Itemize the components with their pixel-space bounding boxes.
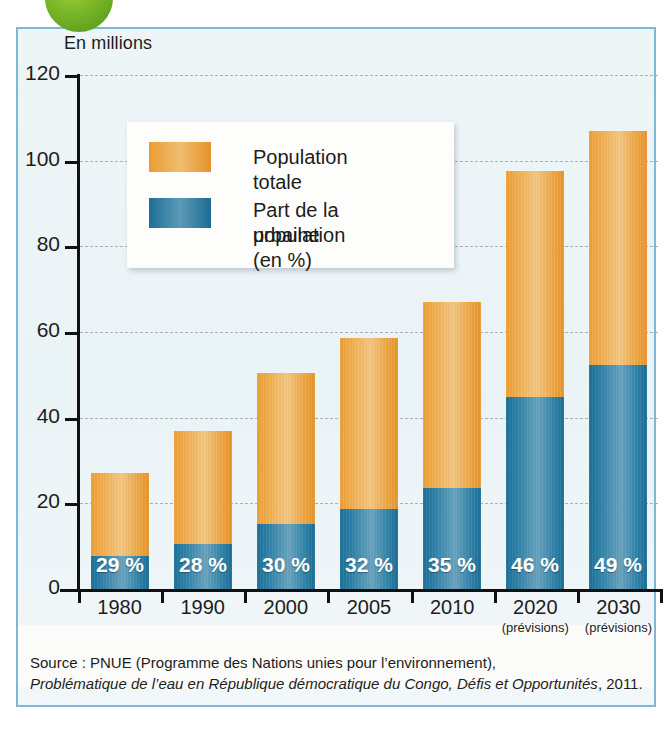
chart-legend: Population totale Part de la population … [127,122,454,268]
y-tick-label: 120 [8,61,60,85]
y-tick-label: 80 [8,232,60,256]
y-tick-label: 0 [8,575,60,599]
y-tick-mark [65,503,79,506]
x-axis-line [60,589,660,592]
y-tick-label: 60 [8,318,60,342]
plot-area: 02040608010012029 %198028 %199030 %20003… [0,0,672,731]
source-line-1: Source : PNUE (Programme des Nations uni… [30,652,650,673]
legend-label-urban-line2: urbaine (en %) [253,223,320,273]
x-tick-label-1990: 1990 [158,596,248,619]
source-year: , 2011. [598,675,643,692]
orange-swatch-icon [149,142,211,172]
x-tick-label-2005: 2005 [324,596,414,619]
y-tick-mark [65,589,79,592]
x-tick-sublabel-2030: (prévisions) [568,620,668,635]
bar-percent-label-2030: 49 % [583,553,653,577]
source-title-italic: Problématique de l’eau en République dém… [30,675,598,692]
bar-percent-label-1980: 29 % [85,553,155,577]
x-tick-label-1980: 1980 [75,596,165,619]
y-tick-mark [65,418,79,421]
bar-percent-label-1990: 28 % [168,553,238,577]
gridline [80,75,658,76]
bar-percent-label-2005: 32 % [334,553,404,577]
x-tick-label-2010: 2010 [407,596,497,619]
y-tick-label: 100 [8,147,60,171]
y-tick-mark [65,332,79,335]
y-tick-mark [65,246,79,249]
chart-page: En millions 02040608010012029 %198028 %1… [0,0,672,731]
x-tick-mark [660,589,663,603]
gridline [80,332,658,333]
y-tick-label: 40 [8,404,60,428]
x-tick-label-2000: 2000 [241,596,331,619]
y-tick-mark [65,75,79,78]
bar-percent-label-2020: 46 % [500,553,570,577]
x-tick-label-2030: 2030 [573,596,663,619]
source-note: Source : PNUE (Programme des Nations uni… [30,652,650,694]
legend-label-total: Population totale [253,145,348,195]
y-tick-mark [65,161,79,164]
source-line-2: Problématique de l’eau en République dém… [30,673,650,694]
bar-percent-label-2010: 35 % [417,553,487,577]
x-tick-label-2020: 2020 [490,596,580,619]
bar-percent-label-2000: 30 % [251,553,321,577]
y-tick-label: 20 [8,489,60,513]
blue-swatch-icon [149,198,211,228]
